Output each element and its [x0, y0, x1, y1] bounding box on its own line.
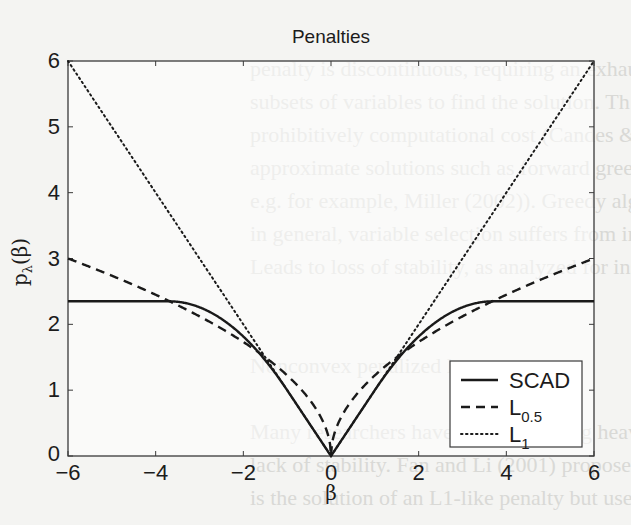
y-tick-label: 5: [48, 114, 60, 139]
y-tick-label: 2: [48, 311, 60, 336]
x-tick-label: 2: [413, 460, 425, 485]
x-tick-label: 4: [500, 460, 512, 485]
y-tick-label: 4: [48, 180, 60, 205]
legend-label-scad: SCAD: [509, 368, 570, 393]
y-axis-label-sub: λ: [20, 265, 35, 273]
penalties-chart: Penalties −6−4−202460123456 β pλ(β) SCAD…: [0, 0, 631, 525]
y-tick-label: 6: [48, 48, 60, 73]
y-axis-label-main: p: [8, 273, 32, 286]
chart-title: Penalties: [292, 26, 370, 47]
legend: SCADL0.5L1: [450, 361, 582, 452]
x-tick-label: −2: [231, 460, 256, 485]
x-tick-label: −4: [143, 460, 168, 485]
y-tick-label: 3: [48, 246, 60, 271]
x-axis-label: β: [325, 481, 337, 505]
x-tick-label: 6: [588, 460, 600, 485]
y-axis-label-arg: (β): [8, 238, 32, 265]
y-tick-label: 0: [48, 441, 60, 466]
svg-text:pλ(β): pλ(β): [8, 238, 35, 286]
y-tick-label: 1: [48, 377, 60, 402]
y-axis-label: pλ(β): [8, 238, 35, 286]
